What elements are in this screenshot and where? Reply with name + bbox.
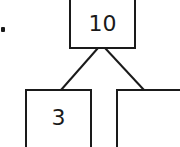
- connector-right: [105, 48, 144, 90]
- part-box-right-empty[interactable]: [116, 89, 180, 147]
- connector-left: [61, 48, 98, 90]
- whole-box: 10: [69, 0, 136, 49]
- part-value-left: 3: [52, 105, 66, 130]
- whole-value: 10: [89, 11, 117, 36]
- part-box-left: 3: [25, 89, 92, 147]
